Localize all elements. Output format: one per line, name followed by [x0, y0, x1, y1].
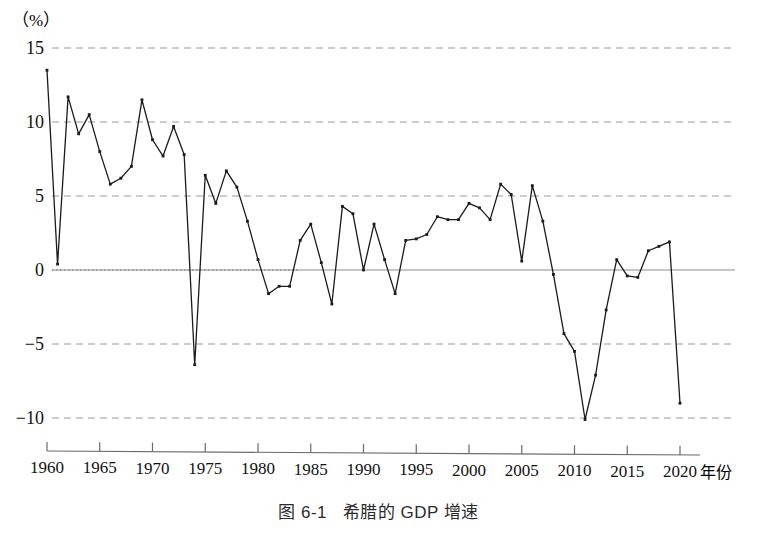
data-point-marker [130, 165, 133, 168]
data-point-marker [267, 292, 270, 295]
data-point-marker [288, 285, 291, 288]
data-point-marker [436, 215, 439, 218]
data-point-marker [605, 309, 608, 312]
x-axis-tick-label: 2005 [505, 461, 539, 480]
data-point-marker [56, 263, 59, 266]
data-point-marker [478, 206, 481, 209]
x-axis-name-label: 年份 [700, 464, 732, 481]
data-point-marker [394, 292, 397, 295]
x-axis-tick-label: 1965 [83, 458, 117, 477]
data-point-marker [236, 186, 239, 189]
data-point-marker [67, 95, 70, 98]
data-point-marker [98, 150, 101, 153]
data-point-marker [46, 69, 49, 72]
data-point-marker [499, 183, 502, 186]
data-point-marker [563, 332, 566, 335]
x-axis-tick-label: 1970 [136, 459, 170, 478]
data-point-marker [658, 245, 661, 248]
data-series-group [47, 70, 680, 419]
x-axis-tick-label: 2015 [610, 462, 644, 481]
data-point-marker [594, 374, 597, 377]
figure-caption: 图 6-1 希腊的 GDP 增速 [0, 498, 757, 523]
data-point-marker [119, 177, 122, 180]
x-axis-tick-label: 2010 [558, 461, 592, 480]
data-point-marker [615, 258, 618, 261]
x-axis-line [47, 442, 700, 455]
series-line-greece-gdp-growth [47, 70, 680, 419]
data-point-marker [489, 218, 492, 221]
data-point-marker [109, 183, 112, 186]
y-axis-tick-label: 10 [26, 112, 44, 132]
x-axis-tick-label: 1995 [399, 460, 433, 479]
data-point-marker [383, 258, 386, 261]
data-point-marker [193, 363, 196, 366]
x-axis-tick-label: 1960 [30, 458, 64, 477]
x-axis-baseline [47, 451, 700, 455]
data-point-marker [636, 276, 639, 279]
data-point-marker [447, 218, 450, 221]
data-point-marker [584, 418, 587, 421]
data-point-marker [330, 303, 333, 306]
x-axis-tick-label: 1980 [241, 459, 275, 478]
data-point-marker [278, 285, 281, 288]
data-point-marker [77, 132, 80, 135]
data-point-marker [468, 202, 471, 205]
data-point-marker [404, 239, 407, 242]
x-axis-tick-label: 1985 [294, 460, 328, 479]
y-axis-tick-label: 15 [26, 38, 44, 58]
data-point-marker [626, 275, 629, 278]
y-axis-unit-label: （%） [12, 11, 60, 30]
x-axis-tick-label: 1975 [188, 459, 222, 478]
data-point-marker [668, 240, 671, 243]
data-point-marker [299, 239, 302, 242]
data-point-marker [520, 260, 523, 263]
data-point-marker [647, 249, 650, 252]
data-point-marker [257, 258, 260, 261]
y-axis-tick-label: −5 [25, 334, 44, 354]
data-point-marker [552, 273, 555, 276]
data-point-marker [573, 350, 576, 353]
caption-number: 图 6-1 [278, 503, 327, 522]
data-point-marker [162, 155, 165, 158]
data-point-marker [183, 153, 186, 156]
gdp-growth-line-chart: 151050−5−10 1960196519701975198019851990… [0, 0, 757, 498]
y-axis-tick-label: −10 [16, 408, 44, 428]
data-point-marker [457, 218, 460, 221]
figure-container: 151050−5−10 1960196519701975198019851990… [0, 0, 757, 540]
data-point-marker [204, 174, 207, 177]
data-point-marker [415, 238, 418, 241]
data-point-marker [151, 138, 154, 141]
x-axis-tick-label: 2000 [452, 461, 486, 480]
data-point-marker [246, 220, 249, 223]
data-point-marker [341, 205, 344, 208]
x-axis-tick-label: 2020 [663, 462, 697, 481]
data-point-marker [214, 202, 217, 205]
data-point-marker [141, 98, 144, 101]
caption-gap [327, 503, 343, 522]
y-axis-tick-labels: 151050−5−10 [16, 38, 44, 428]
caption-title: 希腊的 GDP 增速 [343, 503, 479, 522]
data-point-marker [679, 402, 682, 405]
data-point-marker [320, 261, 323, 264]
data-point-marker [373, 223, 376, 226]
x-axis-tick-labels: 1960196519701975198019851990199520002005… [30, 458, 697, 481]
data-point-marker [172, 125, 175, 128]
data-point-marker [352, 212, 355, 215]
data-point-marker [541, 220, 544, 223]
data-point-marker [362, 269, 365, 272]
y-axis-tick-label: 0 [35, 260, 44, 280]
data-point-marker [225, 169, 228, 172]
gridline-group [52, 48, 735, 418]
x-axis-tick-label: 1990 [347, 460, 381, 479]
y-axis-tick-label: 5 [35, 186, 44, 206]
data-point-marker [88, 113, 91, 116]
data-point-marker [510, 193, 513, 196]
data-point-marker [309, 223, 312, 226]
data-point-marker [531, 184, 534, 187]
data-point-marker [425, 233, 428, 236]
